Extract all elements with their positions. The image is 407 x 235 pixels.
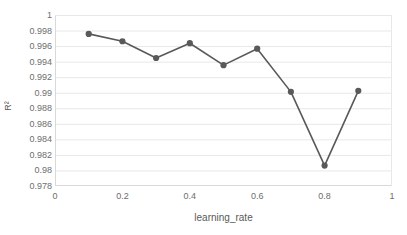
- y-axis-tick-label: 0.98: [14, 166, 52, 175]
- data-point[interactable]: learning_rate: 0.3, R²: 0.99447: [153, 55, 159, 61]
- axis-lines: [55, 15, 392, 186]
- y-axis-tick-label: 0.988: [14, 104, 52, 113]
- data-point[interactable]: learning_rate: 0.9, R²: 0.99024: [355, 88, 361, 94]
- data-point[interactable]: learning_rate: 0.2, R²: 0.99662: [119, 38, 125, 44]
- data-point[interactable]: learning_rate: 0.6, R²: 0.99567: [254, 46, 260, 52]
- y-axis-tick-label: 0.99: [14, 88, 52, 97]
- x-axis-title: learning_rate: [55, 212, 392, 223]
- data-point[interactable]: learning_rate: 0.5, R²: 0.99355: [220, 62, 226, 68]
- y-axis-tick-label: 0.994: [14, 57, 52, 66]
- y-axis-tick-label: 0.982: [14, 150, 52, 159]
- x-axis-tick-label: 0.8: [305, 190, 345, 202]
- y-axis-title-label: R²: [3, 101, 13, 111]
- x-axis-tick-label: 0.4: [170, 190, 210, 202]
- y-axis-tick-label: 0.986: [14, 119, 52, 128]
- y-axis-tick-label: 0.992: [14, 73, 52, 82]
- y-axis-tick-label: 0.998: [14, 26, 52, 35]
- chart-container: R² 0.9780.980.9820.9840.9860.9880.990.99…: [0, 0, 407, 235]
- x-axis-tick-label: 0.6: [237, 190, 277, 202]
- x-axis-tick-label: 1: [372, 190, 407, 202]
- data-point[interactable]: learning_rate: 0.7, R²: 0.99011: [288, 89, 294, 95]
- y-axis-tick-label: 1: [14, 11, 52, 20]
- data-series-line: [89, 34, 359, 166]
- y-axis-tick-label: 0.996: [14, 42, 52, 51]
- plot-area: learning_rate: 0.1, R²: 0.99757learning_…: [55, 15, 392, 186]
- data-point[interactable]: learning_rate: 0.1, R²: 0.99757: [86, 31, 92, 37]
- x-axis-tick-labels: 00.20.40.60.81: [0, 190, 407, 204]
- plot-svg: learning_rate: 0.1, R²: 0.99757learning_…: [55, 15, 392, 186]
- data-point[interactable]: learning_rate: 0.4, R²: 0.99637: [187, 40, 193, 46]
- gridlines: [55, 16, 392, 187]
- data-point[interactable]: learning_rate: 0.8, R²: 0.98063: [322, 162, 328, 168]
- data-point-markers: learning_rate: 0.1, R²: 0.99757learning_…: [86, 31, 362, 169]
- y-axis-tick-label: 0.984: [14, 135, 52, 144]
- x-axis-tick-label: 0: [35, 190, 75, 202]
- x-axis-tick-label: 0.2: [102, 190, 142, 202]
